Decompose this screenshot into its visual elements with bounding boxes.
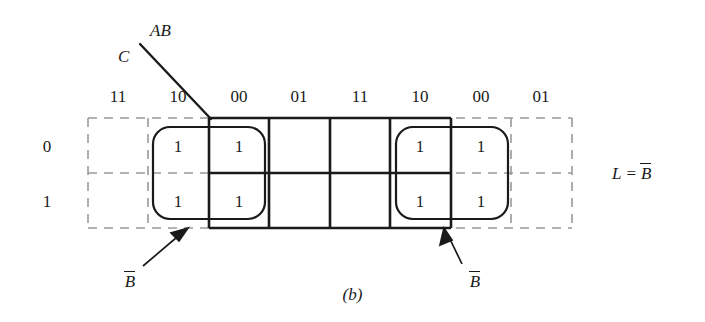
column-header-3: 01 bbox=[269, 88, 329, 105]
group-arrows bbox=[143, 228, 462, 266]
row-header-1: 1 bbox=[34, 193, 60, 210]
axis-label-rows: C bbox=[118, 48, 129, 65]
axis-divider-diagonal bbox=[140, 44, 211, 119]
result-expression: L=B bbox=[612, 164, 651, 182]
column-header-6: 00 bbox=[451, 88, 511, 105]
cell-r0-c6: 1 bbox=[451, 138, 511, 155]
cell-r1-c6: 1 bbox=[451, 193, 511, 210]
cell-r1-c1: 1 bbox=[148, 193, 208, 210]
column-header-0: 11 bbox=[88, 88, 148, 105]
main-grid-solid bbox=[209, 118, 451, 228]
cell-r1-c2: 1 bbox=[209, 193, 269, 210]
cell-r1-c5: 1 bbox=[390, 193, 450, 210]
karnaugh-map-figure: AB C 11 10 00 01 11 10 00 01 0 1 1 1 1 1… bbox=[0, 0, 705, 322]
row-header-0: 0 bbox=[34, 138, 60, 155]
column-header-2: 00 bbox=[209, 88, 269, 105]
column-header-5: 10 bbox=[390, 88, 450, 105]
kmap-canvas bbox=[0, 0, 705, 322]
cell-r0-c2: 1 bbox=[209, 138, 269, 155]
column-header-1: 10 bbox=[148, 88, 208, 105]
figure-caption: (b) bbox=[0, 286, 705, 303]
cell-r0-c1: 1 bbox=[148, 138, 208, 155]
result-operator: = bbox=[621, 164, 641, 183]
cell-r0-c5: 1 bbox=[390, 138, 450, 155]
column-header-4: 11 bbox=[330, 88, 390, 105]
axis-label-columns: AB bbox=[150, 22, 171, 39]
result-rhs: B bbox=[641, 164, 651, 182]
arrow-head-right bbox=[440, 228, 452, 245]
column-header-7: 01 bbox=[511, 88, 571, 105]
